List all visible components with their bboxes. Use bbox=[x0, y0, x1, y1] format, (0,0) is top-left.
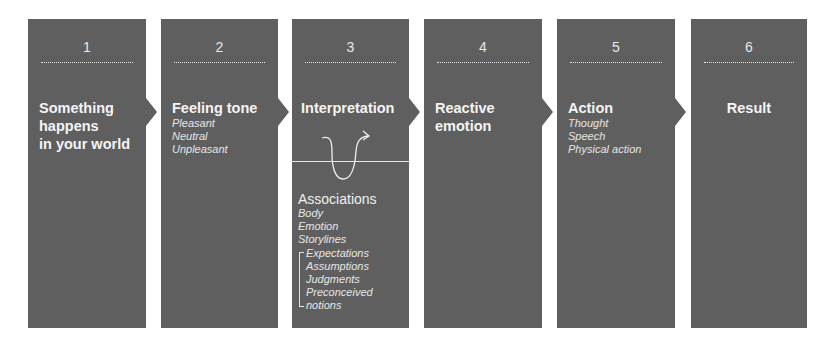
sub-item: Emotion bbox=[298, 220, 405, 233]
title-line: in your world bbox=[39, 135, 140, 153]
title-line: Feeling tone bbox=[172, 99, 272, 117]
title-line: Result bbox=[691, 99, 807, 117]
arrow-right-icon bbox=[146, 98, 157, 126]
divider bbox=[41, 62, 133, 63]
sub-item: Pleasant bbox=[172, 117, 272, 130]
title-line: Reactive bbox=[435, 99, 536, 117]
sub-item: Speech bbox=[568, 130, 669, 143]
step-number: 1 bbox=[28, 39, 146, 55]
arrow-right-icon bbox=[675, 98, 686, 126]
step-title: Something happens in your world bbox=[39, 99, 140, 153]
step-number: 2 bbox=[161, 39, 278, 55]
step-title: Result bbox=[691, 99, 807, 117]
sub-item: Body bbox=[298, 207, 405, 220]
divider bbox=[704, 62, 794, 63]
title-line: happens bbox=[39, 117, 140, 135]
arrow-right-icon bbox=[542, 98, 553, 126]
step-5-panel: 5 Action Thought Speech Physical action bbox=[557, 19, 675, 328]
divider bbox=[174, 62, 265, 63]
step-number: 6 bbox=[691, 39, 807, 55]
sub-item: notions bbox=[306, 299, 405, 312]
sub-item: Storylines bbox=[298, 233, 405, 246]
divider bbox=[292, 161, 409, 162]
divider bbox=[570, 62, 662, 63]
sub-item: Assumptions bbox=[306, 260, 405, 273]
title-line: Action bbox=[568, 99, 669, 117]
divider bbox=[437, 62, 529, 63]
sub-item: Preconceived bbox=[306, 286, 405, 299]
step-4-panel: 4 Reactive emotion bbox=[424, 19, 542, 328]
sub-item: Thought bbox=[568, 117, 669, 130]
step-title: Action Thought Speech Physical action bbox=[568, 99, 669, 156]
u-turn-arrow-icon bbox=[292, 19, 409, 189]
step-number: 4 bbox=[424, 39, 542, 55]
sub-item: Expectations bbox=[306, 247, 405, 260]
associations-title: Associations bbox=[298, 191, 405, 207]
step-2-panel: 2 Feeling tone Pleasant Neutral Unpleasa… bbox=[161, 19, 278, 328]
arrow-right-icon bbox=[409, 98, 420, 126]
sub-item: Judgments bbox=[306, 273, 405, 286]
title-line: Something bbox=[39, 99, 140, 117]
sub-item: Neutral bbox=[172, 130, 272, 143]
sub-item: Physical action bbox=[568, 143, 669, 156]
step-3-panel: 3 Interpretation Associations Body Emoti… bbox=[292, 19, 409, 328]
step-title: Reactive emotion bbox=[435, 99, 536, 135]
associations: Associations Body Emotion Storylines Exp… bbox=[298, 191, 405, 312]
bracket-group: Expectations Assumptions Judgments Preco… bbox=[298, 247, 405, 312]
arrow-right-icon bbox=[278, 98, 289, 126]
step-6-panel: 6 Result bbox=[691, 19, 807, 328]
title-line: emotion bbox=[435, 117, 536, 135]
sub-item: Unpleasant bbox=[172, 143, 272, 156]
step-1-panel: 1 Something happens in your world bbox=[28, 19, 146, 328]
bracket-icon bbox=[299, 252, 304, 307]
step-number: 5 bbox=[557, 39, 675, 55]
step-title: Feeling tone Pleasant Neutral Unpleasant bbox=[172, 99, 272, 156]
